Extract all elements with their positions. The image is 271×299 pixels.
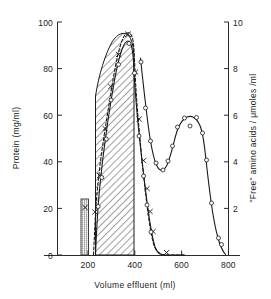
y2-tick-label-10: 10 xyxy=(233,18,243,28)
x-tick-label-200: 200 xyxy=(81,260,96,270)
axes xyxy=(44,22,240,256)
x-tick-label-800: 800 xyxy=(221,260,236,270)
y2-tick-label-6: 6 xyxy=(233,111,238,121)
y-axis-title-left: Protein (mg/ml) xyxy=(11,107,21,170)
x-axis-title: Volume effluent (ml) xyxy=(94,280,175,290)
y-tick-label-100: 100 xyxy=(38,18,53,28)
y-tick-label-20: 20 xyxy=(43,204,53,214)
y-tick-label-0: 0 xyxy=(48,251,53,261)
shaded-hatched-region xyxy=(96,33,135,255)
x-tick-label-600: 600 xyxy=(174,260,189,270)
series-free-amino-acids xyxy=(139,58,226,255)
y-axis-right-tick-labels: 10 8 6 4 2 xyxy=(233,18,243,214)
y-tick-label-80: 80 xyxy=(43,64,53,74)
y-tick-label-60: 60 xyxy=(43,111,53,121)
chart-svg: 100 80 60 40 20 0 10 8 6 4 2 200 400 600… xyxy=(0,0,271,299)
y2-tick-label-2: 2 xyxy=(233,204,238,214)
y2-tick-label-4: 4 xyxy=(233,157,238,167)
y2-tick-label-8: 8 xyxy=(233,64,238,74)
chart-figure: 100 80 60 40 20 0 10 8 6 4 2 200 400 600… xyxy=(0,0,271,299)
y-axis-title-right: "Free" amino acids / μmoles /ml xyxy=(248,74,258,203)
x-tick-label-400: 400 xyxy=(127,260,142,270)
x-axis-tick-labels: 200 400 600 800 xyxy=(81,260,236,270)
series-free-amino-markers xyxy=(139,60,224,247)
y-axis-left-tick-labels: 100 80 60 40 20 0 xyxy=(38,18,53,261)
y-tick-label-40: 40 xyxy=(43,157,53,167)
